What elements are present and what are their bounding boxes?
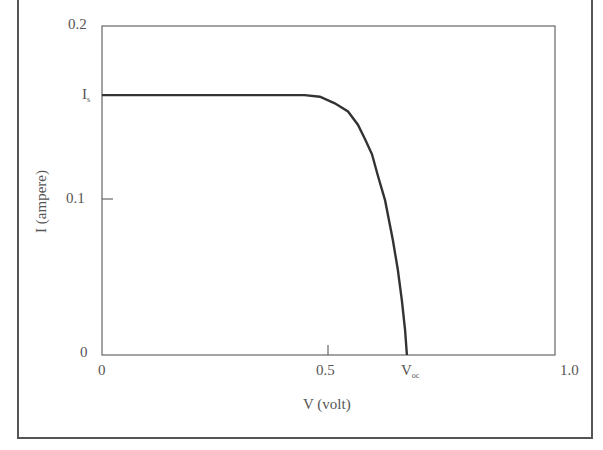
y-tick-label-0.1: 0.1 — [66, 190, 85, 207]
x-axis-title: V (volt) — [303, 396, 351, 413]
iv-curve — [102, 95, 407, 355]
plot-area — [102, 26, 555, 355]
y-tick-label-is: Is — [82, 86, 90, 104]
y-tick-label-0.2: 0.2 — [68, 16, 87, 33]
iv-chart — [0, 0, 603, 450]
x-tick-label-0: 0 — [98, 362, 106, 379]
y-tick-label-0: 0 — [80, 344, 88, 361]
y-axis-title: I (ampere) — [33, 147, 50, 257]
x-tick-label-voc: Voc — [401, 362, 419, 380]
x-tick-label-0.5: 0.5 — [316, 362, 335, 379]
x-tick-label-1.0: 1.0 — [560, 362, 579, 379]
